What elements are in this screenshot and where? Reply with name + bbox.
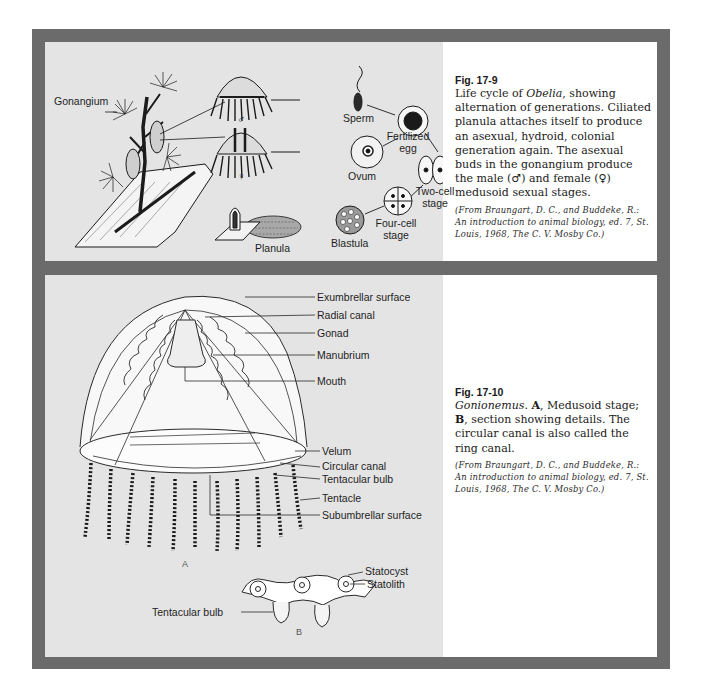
label-four-cell-line1: Four-cell [371,217,421,229]
label-tentacular-bulb-section: Tentacular bulb [152,606,223,618]
figure-17-10-caption: Fig. 17-10 Gonionemus. A, Medusoid stage… [455,386,653,495]
label-radial-canal: Radial canal [317,309,375,321]
label-manubrium: Manubrium [317,349,370,361]
gonionemus-illustration: Exumbrellar surface Radial canal Gonad M… [45,275,443,657]
label-fertilized-egg: Fertilized egg [383,130,433,154]
label-ovum: Ovum [348,170,376,182]
figure-number: Fig. 17-10 [455,386,653,398]
source-credit: (From Braungart, D. C., and Buddeke, R.:… [455,204,653,240]
part-a-ref: A [531,399,540,412]
obelia-life-cycle-illustration: Gonangium ♂ ♀ Sperm Ovum Fertilized egg … [45,42,443,261]
figure-17-9-panel: Gonangium ♂ ♀ Sperm Ovum Fertilized egg … [45,42,657,261]
label-statolith: Statolith [367,578,405,590]
genus-name: Obelia [526,87,562,100]
caption-text: Life cycle of Obelia, showing alternatio… [455,87,653,201]
label-sperm: Sperm [343,112,374,124]
label-exumbrellar-surface: Exumbrellar surface [317,291,410,303]
label-blastula: Blastula [331,237,368,249]
label-gonad: Gonad [317,327,349,339]
label-two-cell-line2: stage [413,197,457,209]
figure-number: Fig. 17-9 [455,74,653,86]
label-four-cell-stage: Four-cell stage [371,217,421,241]
caption-part: Life cycle of [455,87,526,100]
label-part-a: A [182,558,188,570]
label-male-symbol: ♂ [237,113,245,125]
caption-part: , Medusoid stage; [540,399,639,412]
label-mouth: Mouth [317,375,346,387]
label-four-cell-line2: stage [371,229,421,241]
label-circular-canal: Circular canal [322,460,386,472]
label-planula: Planula [255,242,290,254]
label-gonangium: Gonangium [54,95,108,107]
caption-text: Gonionemus. A, Medusoid stage; B, sectio… [455,399,653,456]
label-two-cell-stage: Two-cell stage [413,185,457,209]
label-part-b: B [296,626,302,638]
figure-17-10-panel: Exumbrellar surface Radial canal Gonad M… [45,275,657,657]
label-female-symbol: ♀ [237,170,245,182]
source-credit: (From Braungart, D. C., and Buddeke, R.:… [455,459,653,495]
label-two-cell-line1: Two-cell [413,185,457,197]
label-statocyst: Statocyst [365,565,408,577]
label-tentacle: Tentacle [322,492,361,504]
figure-17-9-caption: Fig. 17-9 Life cycle of Obelia, showing … [455,74,653,240]
label-fertilized-line2: egg [383,142,433,154]
label-velum: Velum [322,445,351,457]
label-fertilized-line1: Fertilized [383,130,433,142]
caption-part: , showing alternation of generations. Ci… [455,87,651,199]
figure-frame: Gonangium ♂ ♀ Sperm Ovum Fertilized egg … [32,29,670,669]
label-tentacular-bulb: Tentacular bulb [322,473,393,485]
caption-part: , section showing details. The circular … [455,413,630,454]
genus-name: Gonionemus [455,399,524,412]
label-subumbrellar-surface: Subumbrellar surface [322,509,422,521]
part-b-ref: B [455,413,464,426]
